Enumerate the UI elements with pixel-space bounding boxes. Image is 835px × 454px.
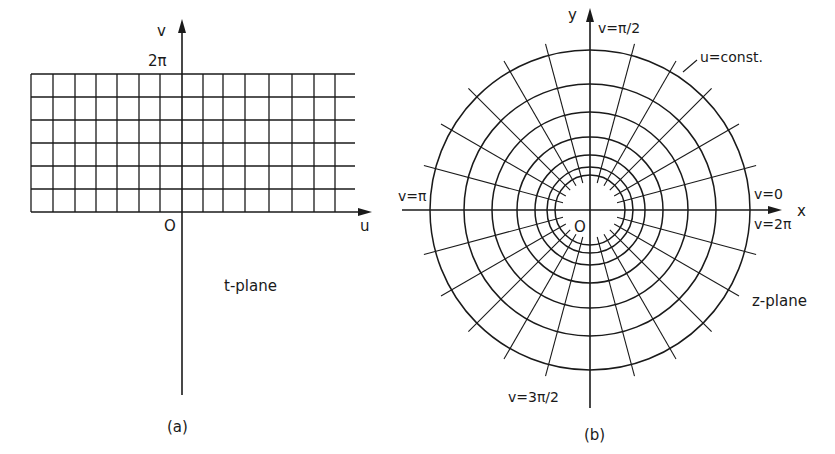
panel-a-t-plane: v 2π O u t-plane (a) [31, 19, 372, 436]
z-plane-origin-label: O [574, 218, 586, 236]
v-axis-arrow-icon [178, 19, 186, 33]
conformal-mapping-figure: v 2π O u t-plane (a) y v=π/2 u=const. v=… [0, 0, 835, 454]
v-const-radial-line [468, 230, 570, 332]
two-pi-tick-label: 2π [148, 52, 167, 70]
t-plane-grid [31, 74, 355, 212]
v-const-radial-line [610, 230, 712, 332]
t-plane-origin-label: O [164, 217, 176, 235]
v-axis-label: v [157, 22, 166, 40]
v-0-label: v=0 [754, 186, 783, 202]
panel-a-caption: (a) [167, 418, 188, 436]
z-plane-label: z-plane [752, 292, 807, 310]
v-2pi-label: v=2π [754, 216, 792, 232]
u-axis-label: u [360, 217, 370, 235]
z-plane-axes [402, 8, 782, 408]
panel-b-z-plane: y v=π/2 u=const. v=π v=0 x v=2π O z-plan… [398, 6, 807, 444]
t-plane-label: t-plane [224, 277, 277, 295]
panel-b-caption: (b) [584, 426, 605, 444]
v-pi-label: v=π [398, 188, 427, 204]
v-const-radial-line [610, 88, 712, 190]
u-const-label: u=const. [700, 49, 763, 65]
t-plane-axes [31, 19, 372, 395]
u-axis-arrow-icon [358, 208, 372, 216]
x-axis-label: x [797, 202, 806, 220]
v-pi-over-2-label: v=π/2 [598, 20, 640, 36]
v-const-radial-line [468, 88, 570, 190]
u-const-leader-line [683, 60, 697, 72]
y-axis-label: y [568, 6, 577, 24]
y-axis-arrow-icon [586, 8, 594, 22]
v-3pi-over-2-label: v=3π/2 [508, 389, 559, 405]
x-axis-arrow-icon [768, 206, 782, 214]
